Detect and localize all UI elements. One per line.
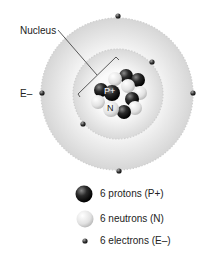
electron-label: E–: [20, 88, 32, 99]
proton-ball-icon: [76, 186, 93, 203]
electron-dot: [39, 90, 44, 95]
proton-tag: P+: [104, 86, 115, 96]
electron-dot: [115, 13, 120, 18]
electron-dot: [149, 59, 154, 64]
legend-protons: 6 protons (P+): [100, 188, 164, 199]
legend-icons: [76, 186, 94, 244]
neutron-ball-icon: [77, 211, 94, 228]
neutron-tag: N: [107, 103, 114, 113]
electron-dot: [80, 121, 85, 126]
electron-dot-icon: [82, 238, 87, 243]
electron-dot: [116, 168, 121, 173]
legend-electrons: 6 electrons (E–): [100, 235, 171, 246]
legend-neutrons: 6 neutrons (N): [100, 213, 164, 224]
electron-dot: [190, 90, 195, 95]
nucleus-label: Nucleus: [20, 25, 56, 36]
